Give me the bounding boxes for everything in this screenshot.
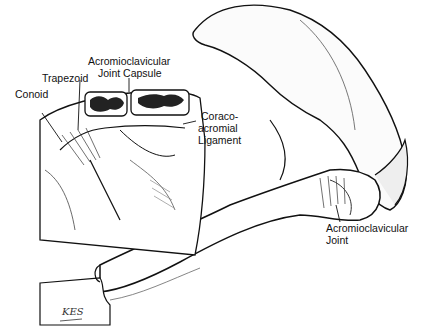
label-ac-joint-1: Acromioclavicular — [326, 222, 408, 234]
label-coracoacromial-2: acromial — [198, 122, 238, 134]
illustration — [0, 0, 422, 332]
medial-clavicle-box — [40, 278, 110, 325]
label-coracoacromial-3: Ligament — [198, 134, 241, 146]
label-ac-joint-capsule-2: Joint Capsule — [98, 67, 162, 79]
label-ac-joint-2: Joint — [326, 234, 348, 246]
label-ac-joint-capsule-1: Acromioclavicular — [88, 55, 170, 67]
label-conoid: Conoid — [15, 88, 48, 100]
label-trapezoid: Trapezoid — [42, 72, 88, 84]
anatomy-figure: Acromioclavicular Joint Capsule Trapezoi… — [0, 0, 422, 332]
label-coracoacromial-1: Coraco- — [201, 110, 238, 122]
artist-signature: KES — [62, 306, 84, 317]
